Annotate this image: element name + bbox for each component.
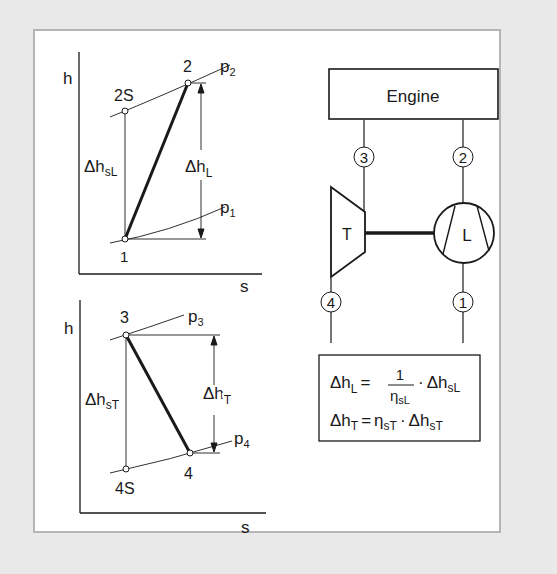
isobar-label-p1: p1 [220,198,236,219]
station-4-label: 4 [327,294,335,311]
x-axis-label: s [240,277,249,296]
point-label-2: 2 [183,58,192,75]
delta-hL-label: ΔhL [185,157,213,180]
arrowhead-icon [211,443,217,452]
formula-2: ΔhT=ηsT·ΔhsT [330,411,443,433]
expansion-line [126,335,190,453]
diagram-canvas: h s 2 2S 1 p2 p1 ΔhsL ΔhL h s 3 4 4S p3 … [0,0,557,574]
point-4s [123,466,129,472]
delta-hsL-label: ΔhsL [84,157,118,179]
point-2 [185,80,191,86]
point-3 [123,332,129,338]
turbocharger-schematic [321,69,498,343]
isobar-label-p3: p3 [188,307,204,328]
arrowhead-icon [211,336,217,345]
point-4 [187,450,193,456]
formula-1-lhs: ΔhL= [330,373,371,396]
y-axis-label: h [64,319,73,338]
formula-turbine: ΔhT=ηsT·ΔhsT [330,411,443,433]
point-2s [122,108,128,114]
formula-compressor: ΔhL= 1 ηsL ·ΔhsL [330,366,460,406]
isobar-label-p4: p4 [234,429,250,450]
arrowhead-icon [198,84,204,93]
compression-line [125,83,188,239]
arrowhead-icon [198,229,204,238]
turbine-label: T [342,226,352,243]
delta-hT-label: ΔhT [203,384,232,407]
formula-1-denominator: ηsL [390,387,410,406]
point-label-2s: 2S [114,87,134,104]
formula-1-rhs: ·ΔhsL [418,373,460,395]
compressor-blade-left [443,206,455,254]
station-1-label: 1 [459,294,467,311]
point-label-3: 3 [120,309,129,326]
y-axis-label: h [63,69,72,88]
formula-1-numerator: 1 [396,366,404,383]
isobar-label-p2: p2 [220,57,236,78]
delta-hsT-label: ΔhsT [85,390,120,412]
compressor-label: L [462,226,471,245]
station-2-label: 2 [459,149,467,166]
point-1 [122,236,128,242]
station-3-label: 3 [360,149,368,166]
point-label-1: 1 [120,248,128,265]
compressor-hs-chart [79,52,262,274]
point-label-4s: 4S [115,480,135,497]
x-axis-label: s [241,518,250,537]
point-label-4: 4 [184,465,193,482]
engine-label: Engine [387,87,440,106]
